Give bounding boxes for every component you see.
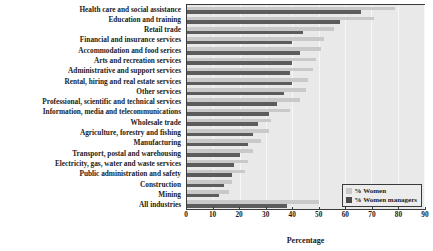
category-label: All industries — [0, 200, 184, 210]
x-tick-label: 10 — [209, 210, 216, 219]
category-label: Construction — [0, 179, 184, 189]
bar-women-managers — [187, 173, 232, 177]
category-label: Public administration and safety — [0, 169, 184, 179]
gridline — [424, 5, 425, 209]
category-label-column: Health care and social assistanceEducati… — [0, 4, 184, 210]
category-label: Transport, postal and warehousing — [0, 148, 184, 158]
bar-row — [187, 36, 424, 46]
legend-swatch-women-managers-icon — [346, 197, 352, 203]
bar-women-managers — [187, 20, 340, 24]
bar-women-managers — [187, 163, 234, 167]
bar-women-managers — [187, 184, 224, 188]
x-tick-label: 40 — [289, 210, 296, 219]
bar-row — [187, 158, 424, 168]
category-label: Arts and recreation services — [0, 55, 184, 65]
bar-row — [187, 56, 424, 66]
legend-item-women: % Women — [346, 187, 417, 195]
category-label: Other services — [0, 86, 184, 96]
bar-women-managers — [187, 122, 258, 126]
category-label: Rental, hiring and real estate services — [0, 76, 184, 86]
bar-row — [187, 76, 424, 86]
bar-women-managers — [187, 51, 300, 55]
legend-label-women-managers: % Women managers — [355, 196, 417, 204]
category-label: Wholesale trade — [0, 117, 184, 127]
bar-row — [187, 97, 424, 107]
bar-row — [187, 5, 424, 15]
bar-women-managers — [187, 194, 219, 198]
category-label: Information, media and telecommunication… — [0, 107, 184, 117]
bar-row — [187, 46, 424, 56]
legend-swatch-women-icon — [346, 188, 352, 194]
x-axis: 0102030405060708090 — [186, 210, 425, 222]
bar-rows — [187, 5, 424, 209]
bar-row — [187, 148, 424, 158]
category-label: Health care and social assistance — [0, 4, 184, 14]
bar-women-managers — [187, 102, 277, 106]
bar-row — [187, 66, 424, 76]
bar-women-managers — [187, 133, 253, 137]
bar-row — [187, 117, 424, 127]
bar-women-managers — [187, 112, 269, 116]
category-label: Electricity, gas, water and waste servic… — [0, 158, 184, 168]
x-tick-label: 0 — [184, 210, 188, 219]
bar-row — [187, 127, 424, 137]
bar-women-managers — [187, 82, 292, 86]
bar-row — [187, 138, 424, 148]
category-label: Financial and insurance services — [0, 35, 184, 45]
bar-chart: Health care and social assistanceEducati… — [0, 0, 433, 251]
category-label: Mining — [0, 189, 184, 199]
category-label: Manufacturing — [0, 138, 184, 148]
bar-row — [187, 87, 424, 97]
plot-area: % Women % Women managers — [186, 4, 425, 210]
category-label: Professional, scientific and technical s… — [0, 97, 184, 107]
bar-row — [187, 107, 424, 117]
bar-women-managers — [187, 92, 284, 96]
bar-women-managers — [187, 61, 292, 65]
bar-women-managers — [187, 41, 292, 45]
x-tick-label: 50 — [315, 210, 322, 219]
category-label: Administrative and support services — [0, 66, 184, 76]
bar-women-managers — [187, 204, 287, 208]
category-label: Retail trade — [0, 25, 184, 35]
x-tick-label: 60 — [342, 210, 349, 219]
x-axis-title: Percentage — [186, 236, 425, 245]
bar-row — [187, 25, 424, 35]
x-tick-label: 70 — [368, 210, 375, 219]
x-tick-label: 30 — [262, 210, 269, 219]
bar-row — [187, 168, 424, 178]
bar-women-managers — [187, 71, 290, 75]
x-tick-label: 20 — [235, 210, 242, 219]
chart-legend: % Women % Women managers — [342, 184, 422, 207]
legend-label-women: % Women — [355, 187, 387, 195]
bar-women-managers — [187, 153, 240, 157]
category-label: Education and training — [0, 14, 184, 24]
x-tick-label: 90 — [421, 210, 428, 219]
bar-women-managers — [187, 31, 303, 35]
category-label: Accommodation and food serices — [0, 45, 184, 55]
bar-row — [187, 15, 424, 25]
category-label: Agriculture, forestry and fishing — [0, 128, 184, 138]
legend-item-women-managers: % Women managers — [346, 196, 417, 204]
x-tick-label: 80 — [395, 210, 402, 219]
bar-women-managers — [187, 143, 248, 147]
bar-women-managers — [187, 10, 361, 14]
